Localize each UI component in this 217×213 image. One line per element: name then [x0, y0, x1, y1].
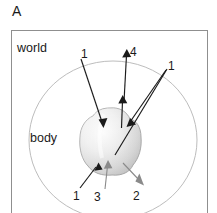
arrow-label-4: 4 [130, 45, 137, 59]
schematic-diagram: world body [0, 0, 217, 213]
arrow-label-1-upper-left: 1 [81, 47, 88, 61]
figure-panel: A world body [0, 0, 217, 213]
body-region-label: body [30, 131, 58, 145]
arrow-label-3: 3 [94, 190, 101, 204]
arrow-label-1-lower-left: 1 [73, 189, 80, 203]
world-region-label: world [16, 41, 47, 55]
arrow-label-1-upper-right: 1 [168, 59, 175, 73]
arrow-label-2: 2 [133, 189, 140, 203]
